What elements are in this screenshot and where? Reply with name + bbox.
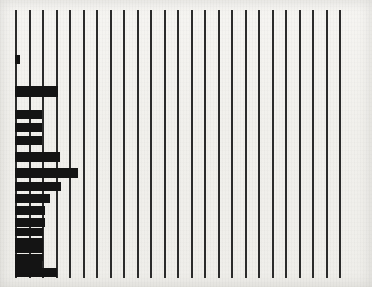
gridline-vertical (258, 10, 260, 278)
chart-figure (0, 0, 372, 287)
bar (15, 182, 61, 191)
bar (15, 168, 78, 178)
bar (15, 136, 42, 145)
gridline-vertical (245, 10, 247, 278)
gridline-vertical (110, 10, 112, 278)
bar (15, 55, 20, 64)
bar (15, 218, 45, 227)
plot-area (0, 0, 372, 287)
gridline-vertical (326, 10, 328, 278)
gridline-vertical (204, 10, 206, 278)
gridline-vertical (285, 10, 287, 278)
gridline-vertical (312, 10, 314, 278)
gridline-vertical (231, 10, 233, 278)
bar (15, 194, 50, 203)
gridline-vertical (96, 10, 98, 278)
gridline-vertical (272, 10, 274, 278)
bar (15, 268, 57, 277)
gridline-vertical (177, 10, 179, 278)
gridline-vertical (83, 10, 85, 278)
bar (15, 238, 43, 246)
bar (15, 206, 45, 215)
gridline-vertical (339, 10, 341, 278)
gridline-vertical (191, 10, 193, 278)
bar (15, 254, 43, 261)
bar (15, 246, 43, 253)
gridline-vertical (218, 10, 220, 278)
bar (15, 110, 42, 119)
gridline-vertical (56, 10, 58, 278)
gridline-vertical (299, 10, 301, 278)
gridline-vertical (69, 10, 71, 278)
gridline-vertical (164, 10, 166, 278)
bar (15, 86, 58, 97)
bar (15, 261, 42, 268)
bar (15, 152, 60, 162)
gridline-vertical (137, 10, 139, 278)
gridline-vertical (150, 10, 152, 278)
gridline-vertical (123, 10, 125, 278)
bar (15, 228, 43, 236)
bar (15, 123, 42, 132)
